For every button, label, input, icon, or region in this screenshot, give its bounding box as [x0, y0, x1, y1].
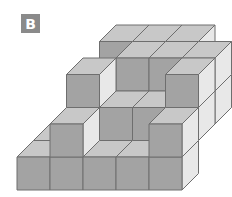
cube-front-face — [166, 75, 199, 108]
cube-front-face — [50, 124, 83, 157]
cube-front-face — [100, 108, 133, 141]
cube-front-face — [149, 157, 182, 190]
cube-front-face — [116, 58, 149, 91]
cube-front-face — [50, 157, 83, 190]
cube-front-face — [83, 157, 116, 190]
cube-front-face — [67, 75, 100, 108]
cube-front-face — [116, 157, 149, 190]
cube-front-face — [149, 124, 182, 157]
cube-front-face — [17, 157, 50, 190]
cube-structure-diagram — [0, 0, 232, 197]
